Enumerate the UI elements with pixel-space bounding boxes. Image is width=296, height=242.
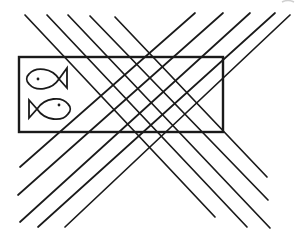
line-drawing: [0, 0, 296, 242]
fish-eye: [58, 104, 61, 107]
up-right-lines: [18, 13, 290, 227]
up-right-line-3: [20, 13, 250, 222]
corner-arc: [282, 1, 294, 3]
down-right-lines: [25, 15, 270, 228]
fish-facing-right-icon: [29, 99, 70, 119]
diagram-canvas: [0, 0, 296, 242]
fish-facing-left-icon: [27, 68, 67, 89]
down-right-line-2: [47, 15, 247, 227]
fish-group: [27, 68, 71, 119]
fish-eye: [37, 78, 40, 81]
